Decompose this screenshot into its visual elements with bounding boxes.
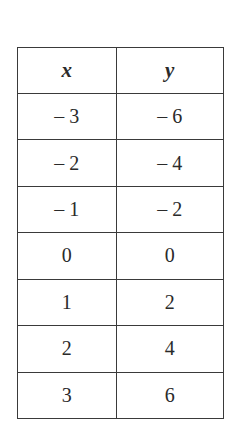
cell-x: 3 <box>18 372 117 418</box>
table-row: – 2 – 4 <box>18 140 224 186</box>
table-row: – 3 – 6 <box>18 94 224 140</box>
header-x: x <box>18 48 117 94</box>
cell-y: 0 <box>116 233 223 279</box>
header-row: x y <box>18 48 224 94</box>
cell-y: 6 <box>116 372 223 418</box>
xy-value-table: x y – 3 – 6 – 2 – 4 – 1 – 2 0 0 1 2 2 4 <box>17 47 224 419</box>
cell-x: – 2 <box>18 140 117 186</box>
cell-y: 2 <box>116 279 223 325</box>
table-row: 2 4 <box>18 326 224 372</box>
cell-y: – 2 <box>116 186 223 232</box>
table-row: 3 6 <box>18 372 224 418</box>
table-row: – 1 – 2 <box>18 186 224 232</box>
cell-y: – 6 <box>116 94 223 140</box>
cell-x: – 1 <box>18 186 117 232</box>
cell-x: 0 <box>18 233 117 279</box>
cell-y: – 4 <box>116 140 223 186</box>
cell-x: 1 <box>18 279 117 325</box>
cell-y: 4 <box>116 326 223 372</box>
header-y: y <box>116 48 223 94</box>
cell-x: – 3 <box>18 94 117 140</box>
table-row: 0 0 <box>18 233 224 279</box>
cell-x: 2 <box>18 326 117 372</box>
table-row: 1 2 <box>18 279 224 325</box>
